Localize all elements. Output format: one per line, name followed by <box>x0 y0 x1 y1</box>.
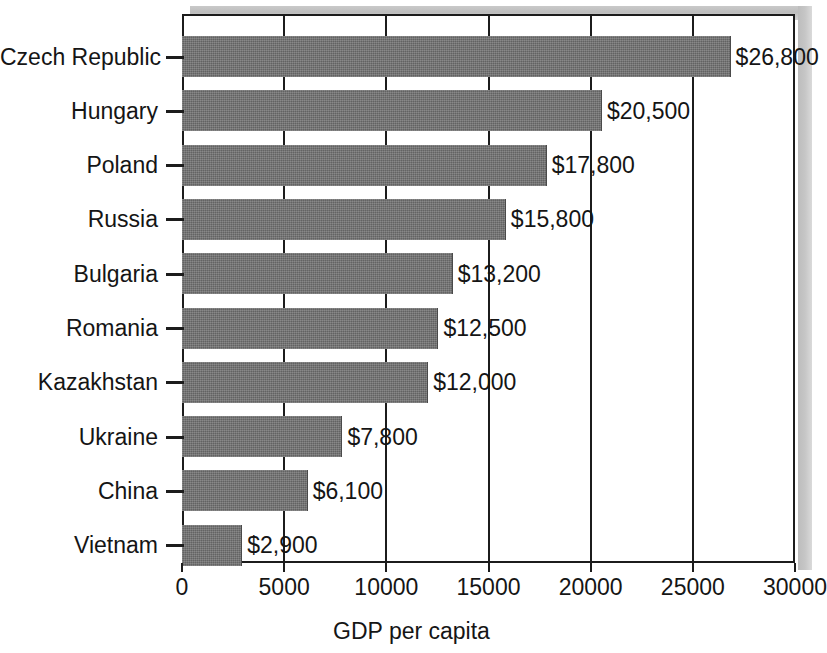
x-axis-title: GDP per capita <box>0 620 823 643</box>
gridline-25000 <box>692 14 694 563</box>
category-label-text: Vietnam <box>74 532 158 558</box>
category-tick <box>166 544 184 547</box>
bar-value-label: $20,500 <box>607 100 690 123</box>
x-tick-30000 <box>794 563 796 572</box>
category-label: Poland <box>0 154 158 177</box>
category-tick <box>166 56 184 59</box>
bar <box>182 145 547 186</box>
bar-value-label: $26,800 <box>736 46 819 69</box>
category-label: Romania <box>0 317 158 340</box>
category-tick <box>166 218 184 221</box>
bar-value-label: $15,800 <box>511 208 594 231</box>
category-label: Kazakhstan <box>0 371 158 394</box>
category-tick <box>166 436 184 439</box>
bar <box>182 90 602 131</box>
category-tick <box>166 273 184 276</box>
x-tick-5000 <box>283 563 285 572</box>
category-tick <box>166 327 184 330</box>
bar <box>182 308 438 349</box>
bar <box>182 525 242 566</box>
x-tick-label-30000: 30000 <box>763 576 827 599</box>
x-tick-label-10000: 10000 <box>354 576 418 599</box>
bar <box>182 253 453 294</box>
category-label: Bulgaria <box>0 263 158 286</box>
bar-value-label: $7,800 <box>347 426 417 449</box>
category-label-text: Kazakhstan <box>38 369 158 395</box>
bar-value-label: $6,100 <box>313 480 383 503</box>
x-tick-label-0: 0 <box>176 576 189 599</box>
category-label-text: Poland <box>86 152 158 178</box>
category-label-text: Bulgaria <box>74 261 158 287</box>
bar <box>182 470 308 511</box>
x-tick-label-15000: 15000 <box>457 576 521 599</box>
category-label: China <box>0 480 158 503</box>
category-tick <box>166 490 184 493</box>
bar <box>182 36 731 77</box>
bar <box>182 199 506 240</box>
x-tick-label-20000: 20000 <box>559 576 623 599</box>
bar <box>182 362 428 403</box>
bar-value-label: $13,200 <box>458 263 541 286</box>
category-label-text: Romania <box>66 315 158 341</box>
x-tick-10000 <box>385 563 387 572</box>
bar-value-label: $17,800 <box>552 154 635 177</box>
plot-frame-shadow-right <box>798 6 812 570</box>
category-label-text: Czech Republic <box>0 44 161 70</box>
category-label-text: China <box>98 478 158 504</box>
category-label: Vietnam <box>0 534 158 557</box>
x-tick-0 <box>181 563 183 572</box>
category-label: Hungary <box>0 100 158 123</box>
category-tick <box>166 164 184 167</box>
x-tick-15000 <box>488 563 490 572</box>
category-tick <box>166 381 184 384</box>
category-label: Russia <box>0 208 158 231</box>
x-tick-label-5000: 5000 <box>259 576 310 599</box>
category-label: Ukraine <box>0 426 158 449</box>
x-tick-25000 <box>692 563 694 572</box>
x-tick-label-25000: 25000 <box>661 576 725 599</box>
category-label-text: Hungary <box>71 98 158 124</box>
bar-value-label: $12,000 <box>433 371 516 394</box>
x-tick-20000 <box>590 563 592 572</box>
bar-value-label: $12,500 <box>443 317 526 340</box>
category-label-text: Russia <box>88 206 158 232</box>
category-label: Czech Republic <box>0 46 158 69</box>
bar-value-label: $2,900 <box>247 534 317 557</box>
category-tick <box>166 110 184 113</box>
bar <box>182 416 342 457</box>
category-label-text: Ukraine <box>79 424 158 450</box>
